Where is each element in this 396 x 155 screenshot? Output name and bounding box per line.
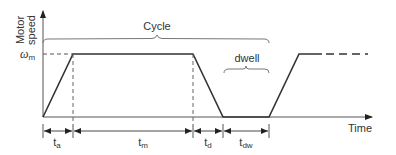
x-axis-label: Time bbox=[348, 122, 372, 134]
t-a-label: ta bbox=[53, 136, 61, 150]
cycle-brace bbox=[43, 35, 269, 43]
y-axis-label-line2: speed bbox=[25, 15, 37, 45]
t-d-label: td bbox=[204, 136, 212, 150]
motor-speed-diagram: Motor speed Time ωm Cycle dwell ta tm td… bbox=[0, 0, 396, 155]
y-axis-label: Motor speed bbox=[14, 15, 37, 45]
t-dw-label: tdw bbox=[239, 136, 253, 150]
dwell-label: dwell bbox=[234, 52, 259, 64]
dwell-brace bbox=[224, 66, 269, 73]
speed-profile-line bbox=[43, 54, 322, 117]
cycle-label: Cycle bbox=[143, 20, 171, 32]
t-m-label: tm bbox=[138, 136, 148, 150]
omega-m-label: ωm bbox=[20, 47, 35, 62]
